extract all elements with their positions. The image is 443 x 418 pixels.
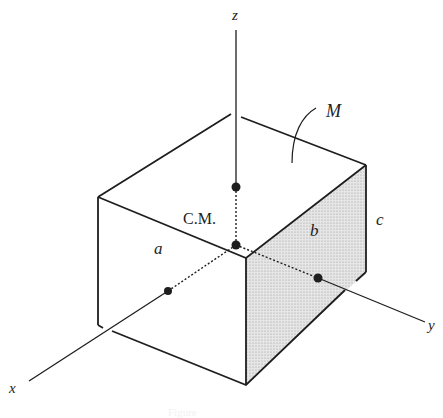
mass-leader-line bbox=[292, 108, 316, 163]
edge-a-label: a bbox=[154, 239, 163, 258]
right-face-shaded bbox=[246, 165, 366, 385]
z-axis-label: z bbox=[231, 7, 238, 23]
center-of-mass-dot bbox=[232, 241, 241, 250]
edge-b-label: b bbox=[310, 221, 319, 240]
y-axis-label: y bbox=[426, 317, 435, 333]
mass-label: M bbox=[325, 101, 342, 121]
x-axis-label: x bbox=[8, 380, 16, 396]
right-face-center-dot bbox=[314, 274, 323, 283]
front-face-center-dot bbox=[164, 287, 172, 295]
rectangular-block-diagram: z x y M C.M. a b c Figure bbox=[0, 0, 443, 418]
x-axis-hidden bbox=[168, 245, 236, 291]
top-face-center-dot bbox=[232, 183, 241, 192]
center-of-mass-label: C.M. bbox=[183, 210, 216, 227]
figure-caption: Figure bbox=[168, 406, 197, 418]
edge-c-label: c bbox=[376, 210, 384, 229]
